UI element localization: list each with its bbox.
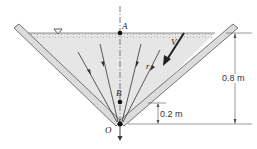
point-b-marker (118, 100, 123, 105)
point-a-marker (118, 31, 123, 36)
tank-diagram (0, 0, 257, 149)
dim-label-b-height: 0.2 m (160, 110, 183, 119)
outflow-arrowhead-icon (118, 136, 123, 141)
point-o-marker (118, 122, 123, 127)
label-velocity: V (171, 38, 177, 47)
label-b: B (116, 89, 122, 98)
dim-arrow-down-small-icon (157, 120, 160, 124)
dim-arrow-down-icon (234, 119, 237, 124)
dim-arrow-up-icon (234, 33, 237, 38)
dim-label-total-depth: 0.8 m (222, 74, 245, 83)
dim-arrow-up-small-icon (157, 103, 160, 107)
label-a: A (122, 22, 128, 31)
label-o: O (105, 126, 112, 135)
label-radius: r (146, 62, 150, 71)
